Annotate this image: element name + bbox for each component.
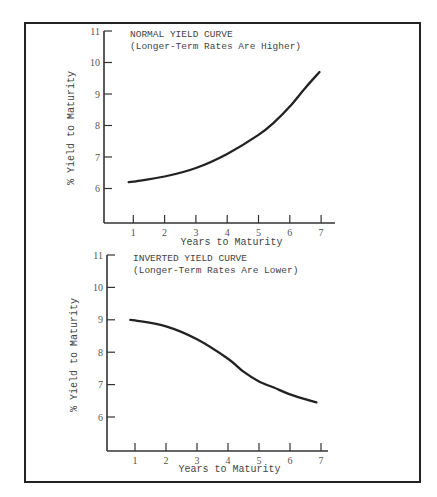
chart-title: INVERTED YIELD CURVE	[133, 253, 247, 264]
yield-curve-line	[130, 320, 316, 403]
x-axis-label: Years to Maturity	[178, 464, 280, 475]
y-tick-label: 10	[93, 282, 103, 293]
chart-subtitle: (Longer-Term Rates Are Lower)	[133, 265, 298, 276]
y-tick-label: 7	[98, 379, 103, 390]
y-tick-label: 9	[98, 314, 103, 325]
y-axis-label: % Yield to Maturity	[69, 298, 80, 412]
x-tick-label: 6	[287, 227, 292, 238]
x-tick-label: 7	[319, 227, 324, 238]
y-tick-label: 10	[90, 57, 100, 68]
x-tick-label: 7	[319, 455, 324, 466]
y-tick-label: 11	[93, 250, 103, 261]
x-axis-label: Years to Maturity	[180, 237, 282, 248]
yield-curve-line	[129, 72, 320, 182]
normal-yield-curve-chart: 678910111234567NORMAL YIELD CURVE(Longer…	[66, 26, 335, 249]
chart-title: NORMAL YIELD CURVE	[130, 29, 233, 40]
y-tick-label: 8	[98, 347, 103, 358]
x-tick-label: 1	[133, 455, 138, 466]
y-tick-label: 11	[90, 26, 100, 37]
yield-curve-charts: 678910111234567NORMAL YIELD CURVE(Longer…	[0, 0, 437, 497]
inverted-yield-curve-chart: 678910111234567INVERTED YIELD CURVE(Long…	[69, 250, 328, 476]
y-tick-label: 6	[95, 183, 100, 194]
x-tick-label: 2	[164, 455, 169, 466]
y-tick-label: 7	[95, 152, 100, 163]
y-tick-label: 9	[95, 89, 100, 100]
y-tick-label: 6	[98, 412, 103, 423]
x-tick-label: 6	[288, 455, 293, 466]
y-axis-label: % Yield to Maturity	[66, 71, 77, 185]
y-tick-label: 8	[95, 120, 100, 131]
chart-subtitle: (Longer-Term Rates Are Higher)	[130, 41, 301, 52]
x-tick-label: 1	[131, 227, 136, 238]
x-tick-label: 2	[162, 227, 167, 238]
